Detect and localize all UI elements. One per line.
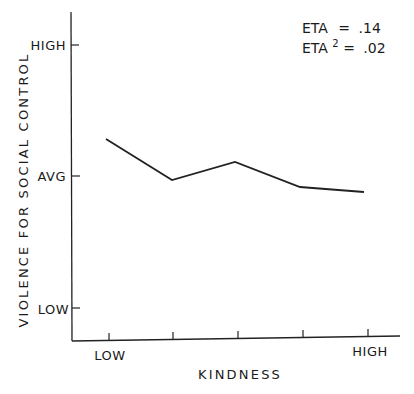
x-tick-label-low: LOW — [94, 348, 125, 363]
eta-squared-annotation: ETA 2 = .02 — [302, 34, 386, 56]
eta2-equals: = — [343, 40, 355, 56]
x-axis — [72, 336, 400, 341]
y-tick-label-high: HIGH — [31, 38, 66, 53]
eta-label: ETA — [302, 20, 328, 36]
eta2-superscript: 2 — [332, 38, 338, 49]
data-line — [106, 139, 364, 192]
y-axis-title: VIOLENCE FOR SOCIAL CONTROL — [16, 53, 31, 328]
x-tick-label-high: HIGH — [352, 344, 387, 359]
y-tick-label-avg: AVG — [37, 169, 66, 184]
chart-canvas: HIGH AVG LOW LOW HIGH KINDNESS VIOLENCE … — [0, 0, 414, 394]
x-axis-title: KINDNESS — [198, 367, 282, 382]
eta2-label: ETA — [302, 40, 328, 56]
eta2-value: .02 — [363, 40, 385, 56]
y-tick-label-low: LOW — [38, 302, 69, 317]
y-axis — [71, 12, 72, 341]
eta-value: .14 — [359, 20, 381, 36]
